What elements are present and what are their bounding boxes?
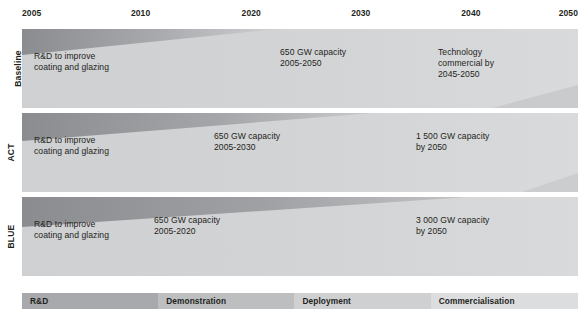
milestone-note: 650 GW capacity 2005-2030 [214, 131, 280, 153]
legend-item-label: Deployment [294, 296, 350, 306]
axis-tick-2005: 2005 [22, 8, 41, 18]
axis-tick-2050: 2050 [559, 8, 578, 18]
axis-tick-2030: 2030 [351, 8, 370, 18]
technology-roadmap-diagram: 200520102020203020402050 R&D to improve … [0, 0, 578, 316]
milestone-note: 650 GW capacity 2005-2020 [154, 215, 220, 237]
scenario-row-baseline: R&D to improve coating and glazing650 GW… [22, 29, 578, 108]
row-label-blue-text: BLUE [0, 225, 51, 249]
axis-tick-2010: 2010 [131, 8, 150, 18]
legend-item-r-d: R&D [22, 293, 158, 309]
legend-item-demonstration: Demonstration [158, 293, 294, 309]
row-label-act: ACT [0, 113, 22, 192]
axis-tick-2020: 2020 [242, 8, 261, 18]
scenario-row-blue: R&D to improve coating and glazing650 GW… [22, 197, 578, 276]
row-label-baseline-text: Baseline [0, 50, 58, 87]
legend-item-label: Commercialisation [431, 296, 515, 306]
row-label-blue: BLUE [0, 197, 22, 276]
legend: R&DDemonstrationDeploymentCommercialisat… [22, 293, 578, 309]
axis-tick-2040: 2040 [461, 8, 480, 18]
legend-item-label: Demonstration [158, 296, 226, 306]
milestone-note: 1 500 GW capacity by 2050 [416, 131, 489, 153]
milestone-note: 3 000 GW capacity by 2050 [416, 215, 489, 237]
legend-item-deployment: Deployment [294, 293, 430, 309]
row-label-baseline: Baseline [0, 29, 22, 108]
legend-item-commercialisation: Commercialisation [431, 293, 578, 309]
milestone-note: 650 GW capacity 2005-2050 [280, 47, 346, 69]
scenario-row-act: R&D to improve coating and glazing650 GW… [22, 113, 578, 192]
legend-item-label: R&D [22, 296, 48, 306]
milestone-note: Technology commercial by 2045-2050 [438, 47, 494, 81]
row-label-act-text: ACT [0, 143, 50, 161]
time-axis: 200520102020203020402050 [0, 8, 578, 24]
